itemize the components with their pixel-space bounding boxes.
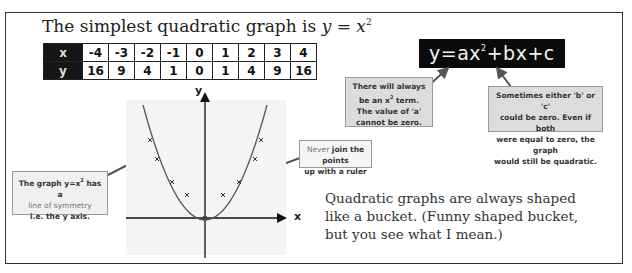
callout-line: would still be quadratic.	[493, 156, 598, 167]
callout-line: Never join the points	[304, 144, 367, 166]
arrow-icon	[497, 68, 511, 87]
callout-line: The value of 'a'	[350, 106, 428, 117]
callout-text: join the points	[322, 145, 364, 165]
callout-line: cannot be zero.	[350, 117, 428, 128]
y-axis-label: y	[195, 84, 202, 97]
callout-bc-terms: Sometimes either 'b' or 'c' could be zer…	[488, 86, 603, 132]
callout-line: Sometimes either 'b' or 'c'	[493, 90, 598, 112]
callout-a-term: There will always be an x2 term. The val…	[345, 77, 433, 127]
callout-text-never: Never	[307, 145, 329, 154]
callout-text: be an x	[359, 96, 390, 105]
callout-text: The graph y=x	[19, 179, 81, 188]
body-line: like a bucket. (Funny shaped bucket,	[325, 207, 625, 225]
callout-line: be an x2 term.	[350, 92, 428, 106]
body-line: Quadratic graphs are always shaped	[325, 189, 625, 207]
callout-line: up with a ruler	[304, 166, 367, 177]
quadratic-graph: y x	[120, 90, 290, 260]
callout-symmetry: The graph y=x2 has a line of symmetry i.…	[12, 171, 108, 215]
callout-ruler: Never join the points up with a ruler	[299, 140, 372, 168]
callout-line: i.e. the y axis.	[17, 211, 103, 222]
parabola-plot	[120, 90, 290, 260]
callout-line: There will always	[350, 81, 428, 92]
callout-line: could be zero. Even if both	[493, 112, 598, 134]
x-axis-label: x	[294, 210, 301, 223]
body-line: but you see what I mean.)	[325, 225, 625, 243]
callout-line: line of symmetry	[17, 200, 103, 211]
callout-line: were equal to zero, the graph	[493, 134, 598, 156]
callout-line: The graph y=x2 has a	[17, 175, 103, 200]
callout-text: term.	[393, 96, 419, 105]
bucket-explanation: Quadratic graphs are always shaped like …	[325, 189, 625, 243]
